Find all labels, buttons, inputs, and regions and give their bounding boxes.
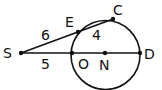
label-e: E	[65, 14, 74, 30]
label-s: S	[3, 45, 12, 61]
label-d: D	[144, 46, 155, 62]
length-so: 5	[41, 56, 50, 72]
point-n	[103, 51, 107, 55]
point-e	[76, 30, 80, 34]
point-d	[138, 51, 142, 55]
label-n: N	[99, 57, 109, 73]
length-ec: 4	[92, 27, 101, 43]
label-c: C	[113, 2, 123, 18]
point-o	[70, 51, 74, 55]
point-s	[19, 51, 23, 55]
length-se: 6	[41, 27, 50, 43]
secant-diagram: SECOND645	[0, 0, 162, 90]
label-o: O	[78, 56, 89, 72]
